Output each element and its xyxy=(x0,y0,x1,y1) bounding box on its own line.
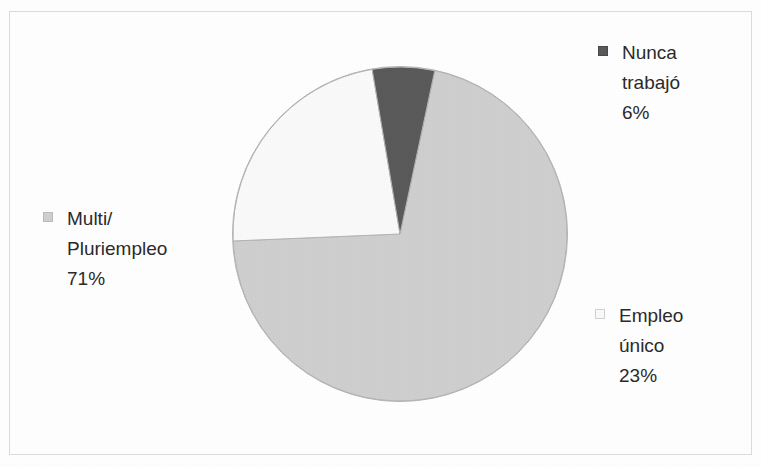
pie-label-lines: Nunca trabajó 6% xyxy=(622,38,680,128)
pie-label-text-line2: trabajó xyxy=(622,68,680,98)
pie-label-text-line1: Multi/ xyxy=(67,204,167,234)
pie-label-text-line1: Empleo xyxy=(619,301,683,331)
pie-slice xyxy=(233,69,400,241)
pie-label-text-line2: Pluriempleo xyxy=(67,234,167,264)
pie-chart-figure: Nunca trabajó 6% Multi/ Pluriempleo 71% … xyxy=(0,0,761,467)
pie-label-text-line2: único xyxy=(619,331,683,361)
pie-label-value: 71% xyxy=(67,264,167,294)
pie-label-lines: Multi/ Pluriempleo 71% xyxy=(67,204,167,294)
pie-label-value: 23% xyxy=(619,361,683,391)
pie-label-multi-pluriempleo: Multi/ Pluriempleo 71% xyxy=(43,204,167,294)
legend-swatch-white-icon xyxy=(595,309,605,319)
pie-label-nunca-trabajo: Nunca trabajó 6% xyxy=(598,38,680,128)
pie-svg xyxy=(232,66,568,402)
legend-swatch-dark-gray-icon xyxy=(598,46,608,56)
pie-label-lines: Empleo único 23% xyxy=(619,301,683,391)
legend-swatch-light-gray-icon xyxy=(43,212,53,222)
pie-label-text-line1: Nunca xyxy=(622,38,680,68)
pie-chart xyxy=(232,66,568,402)
pie-label-value: 6% xyxy=(622,98,680,128)
pie-label-empleo-unico: Empleo único 23% xyxy=(595,301,683,391)
